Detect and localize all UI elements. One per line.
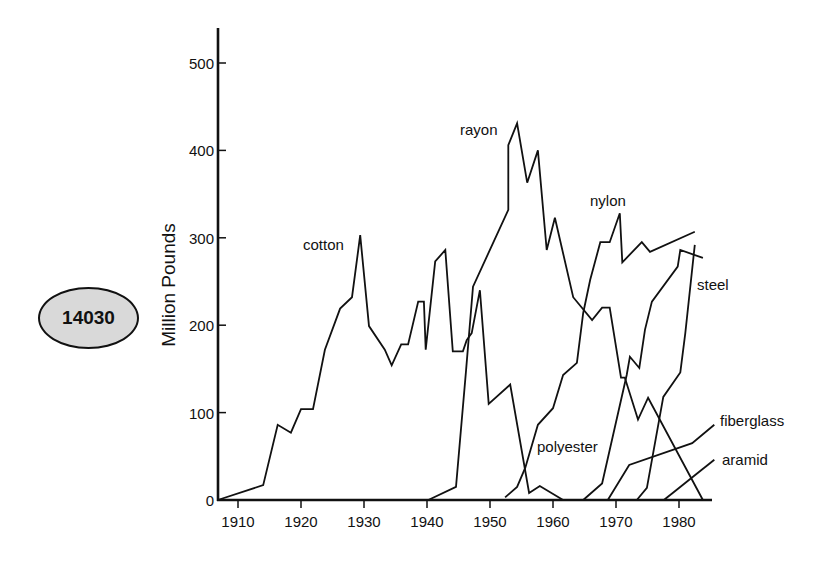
figure-number-badge: 14030: [38, 287, 139, 349]
y-tick-label: 300: [164, 229, 214, 246]
y-tick-label: 200: [164, 317, 214, 334]
series-label-rayon: rayon: [460, 121, 498, 138]
series-line-cotton: [218, 235, 563, 500]
x-tick-label: 1960: [536, 513, 569, 530]
series-label-cotton: cotton: [303, 236, 344, 253]
y-tick-label: 400: [164, 142, 214, 159]
x-tick-label: 1970: [599, 513, 632, 530]
series-label-nylon: nylon: [590, 192, 626, 209]
chart-series: [218, 123, 715, 500]
series-line-aramid: [664, 460, 714, 500]
series-label-aramid: aramid: [722, 451, 768, 468]
chart-axes: [217, 28, 712, 508]
y-tick-label: 0: [164, 492, 214, 509]
x-tick-label: 1910: [221, 513, 254, 530]
series-label-polyester: polyester: [537, 438, 598, 455]
y-tick-label: 100: [164, 404, 214, 421]
x-tick-label: 1930: [347, 513, 380, 530]
series-label-fiberglass: fiberglass: [720, 412, 784, 429]
series-line-polyester: [583, 250, 703, 500]
x-tick-label: 1940: [410, 513, 443, 530]
series-label-steel: steel: [697, 276, 729, 293]
badge-text: 14030: [62, 307, 115, 329]
x-tick-label: 1950: [473, 513, 506, 530]
series-line-fiberglass: [608, 425, 715, 500]
y-tick-label: 500: [164, 55, 214, 72]
x-tick-label: 1920: [284, 513, 317, 530]
series-line-nylon: [505, 213, 695, 497]
x-tick-label: 1980: [662, 513, 695, 530]
